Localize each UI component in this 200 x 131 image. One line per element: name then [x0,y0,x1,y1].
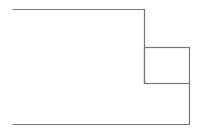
small-rectangle [145,48,190,84]
diagram-canvas [0,0,200,131]
l-shaped-outline [13,10,190,125]
